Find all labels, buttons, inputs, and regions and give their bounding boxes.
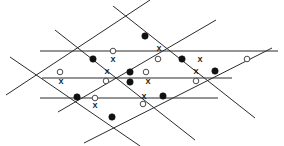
circle bbox=[155, 56, 161, 62]
circle bbox=[140, 101, 146, 107]
line-arrangement-figure: XXXXXXXXX bbox=[0, 0, 284, 146]
circle bbox=[244, 56, 250, 62]
circle bbox=[143, 69, 149, 75]
figure-canvas: XXXXXXXXX bbox=[0, 0, 284, 146]
diagonal-down-1 bbox=[55, 30, 195, 140]
x-mark: X bbox=[92, 101, 97, 110]
x-mark: X bbox=[156, 44, 161, 53]
x-mark: X bbox=[58, 77, 63, 86]
x-mark: X bbox=[104, 67, 109, 76]
dot bbox=[127, 69, 133, 75]
diagonal-down-2 bbox=[113, 6, 255, 118]
circle bbox=[110, 48, 116, 54]
circle bbox=[103, 78, 109, 84]
x-mark: X bbox=[141, 92, 146, 101]
dot bbox=[74, 94, 80, 100]
circle bbox=[92, 95, 98, 101]
dot bbox=[90, 56, 96, 62]
dot bbox=[127, 79, 133, 85]
x-mark: X bbox=[110, 55, 115, 64]
dot bbox=[212, 68, 218, 74]
dot bbox=[142, 33, 148, 39]
dot bbox=[160, 93, 166, 99]
x-mark: X bbox=[145, 77, 150, 86]
x-mark: X bbox=[197, 55, 202, 64]
dot bbox=[109, 114, 115, 120]
circle bbox=[193, 78, 199, 84]
lines-group bbox=[6, 0, 278, 146]
x-mark: X bbox=[193, 67, 198, 76]
diagonal-down-3 bbox=[10, 57, 140, 146]
circle bbox=[57, 69, 63, 75]
dot bbox=[179, 56, 185, 62]
